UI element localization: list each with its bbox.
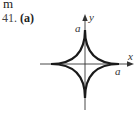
x-axis-label: x — [127, 50, 133, 62]
x-axis-arrow-icon — [127, 61, 134, 66]
x-intercept-label: a — [115, 65, 121, 77]
y-axis-arrow-icon — [82, 14, 87, 21]
y-intercept-label: a — [75, 22, 81, 34]
astroid-figure: y a x a — [0, 0, 138, 116]
y-axis-label: y — [88, 11, 94, 23]
